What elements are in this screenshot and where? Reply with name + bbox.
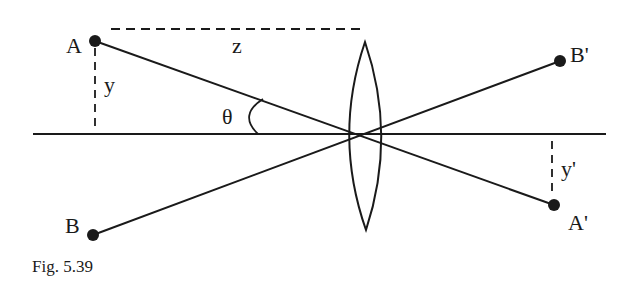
label-theta: θ [222,104,233,129]
ray-a-to-a-prime [95,41,554,205]
label-y-prime: y' [561,156,576,181]
label-b: B [65,213,80,238]
label-a-prime: A' [568,210,588,235]
point-a [89,35,101,47]
figure-caption: Fig. 5.39 [32,257,93,276]
angle-theta-arc [249,99,263,134]
lens-diagram: A B B' A' y y' z θ Fig. 5.39 [0,0,635,286]
label-z: z [232,33,242,58]
label-b-prime: B' [570,42,589,67]
label-a: A [66,33,82,58]
point-a-prime [548,199,560,211]
point-b-prime [554,55,566,67]
point-b [87,229,99,241]
convex-lens [349,42,381,230]
ray-b-to-b-prime [93,61,560,235]
label-y: y [104,72,115,97]
